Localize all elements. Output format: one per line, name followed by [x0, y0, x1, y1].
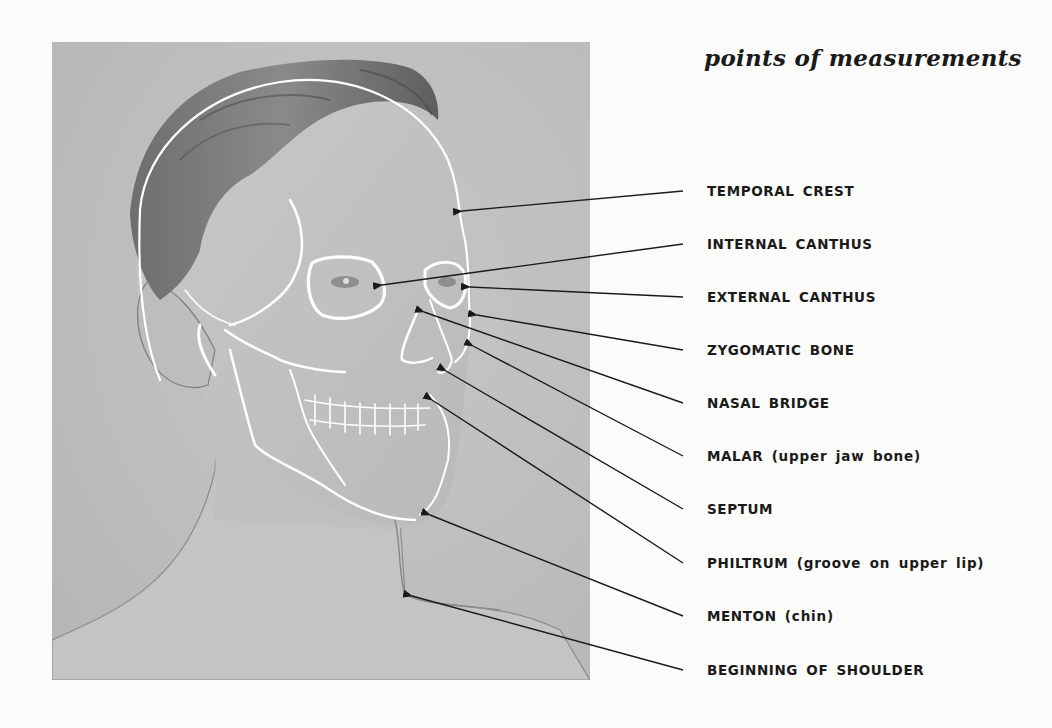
- label-note: (chin): [785, 608, 834, 624]
- label-philtrum: PHILTRUM (groove on upper lip): [707, 555, 984, 571]
- label-main: EXTERNAL CANTHUS: [707, 289, 876, 305]
- label-temporal-crest: TEMPORAL CREST: [707, 183, 854, 199]
- label-note: (upper jaw bone): [772, 448, 921, 464]
- label-zygomatic-bone: ZYGOMATIC BONE: [707, 342, 854, 358]
- label-main: MALAR: [707, 448, 763, 464]
- label-main: ZYGOMATIC BONE: [707, 342, 854, 358]
- label-note: (groove on upper lip): [797, 555, 985, 571]
- label-main: MENTON: [707, 608, 777, 624]
- label-main: NASAL BRIDGE: [707, 395, 830, 411]
- label-menton: MENTON (chin): [707, 608, 834, 624]
- label-beginning-of-shoulder: BEGINNING OF SHOULDER: [707, 662, 924, 678]
- label-internal-canthus: INTERNAL CANTHUS: [707, 236, 873, 252]
- label-main: INTERNAL CANTHUS: [707, 236, 873, 252]
- label-external-canthus: EXTERNAL CANTHUS: [707, 289, 876, 305]
- label-malar: MALAR (upper jaw bone): [707, 448, 921, 464]
- label-septum: SEPTUM: [707, 501, 773, 517]
- label-nasal-bridge: NASAL BRIDGE: [707, 395, 830, 411]
- anatomy-figure: points of measurements TEMPORAL CREST IN…: [0, 0, 1052, 728]
- label-main: SEPTUM: [707, 501, 773, 517]
- photo-illustration: [0, 0, 1052, 728]
- label-main: TEMPORAL CREST: [707, 183, 854, 199]
- label-main: PHILTRUM: [707, 555, 788, 571]
- label-main: BEGINNING OF SHOULDER: [707, 662, 924, 678]
- figure-title: points of measurements: [704, 44, 1022, 71]
